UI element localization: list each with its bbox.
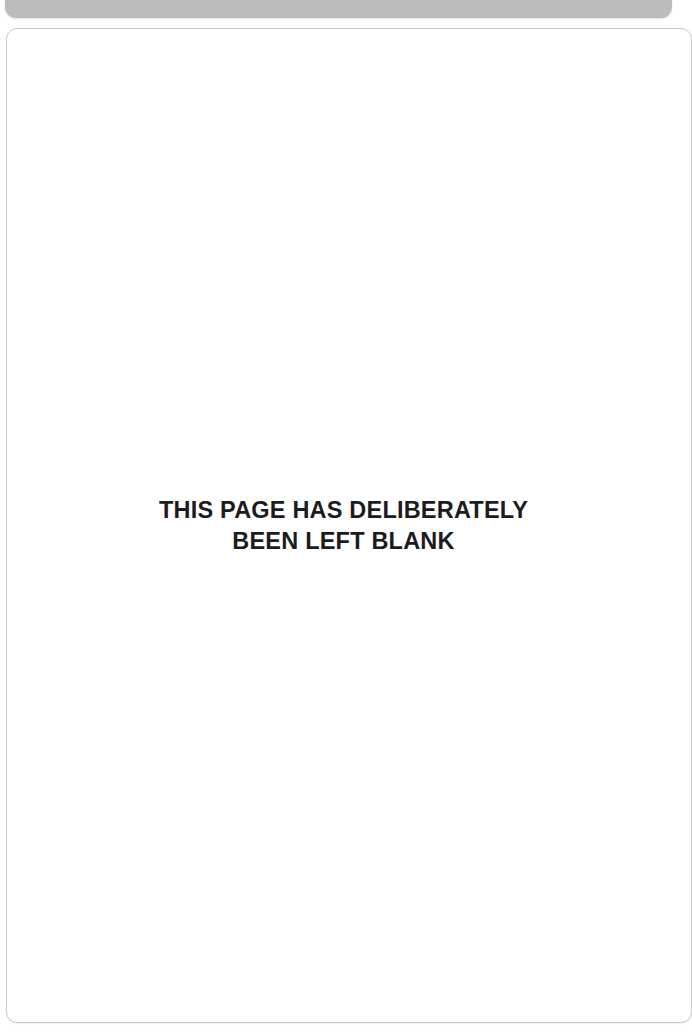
blank-page-notice-line-1: THIS PAGE HAS DELIBERATELY — [7, 495, 680, 526]
previous-page-bottom-edge — [5, 0, 672, 18]
blank-page-notice: THIS PAGE HAS DELIBERATELY BEEN LEFT BLA… — [7, 495, 680, 557]
blank-page-notice-line-2: BEEN LEFT BLANK — [7, 526, 680, 557]
document-page: THIS PAGE HAS DELIBERATELY BEEN LEFT BLA… — [6, 28, 692, 1023]
page-content-area: THIS PAGE HAS DELIBERATELY BEEN LEFT BLA… — [7, 29, 680, 1022]
